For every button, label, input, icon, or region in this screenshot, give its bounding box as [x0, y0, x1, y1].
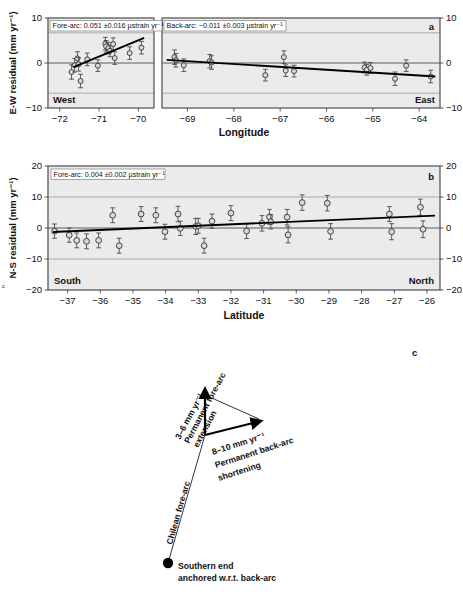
data-point — [78, 79, 83, 84]
x-tick-label: −34 — [158, 295, 174, 306]
x-tick-label: −67 — [272, 113, 288, 124]
x-tick-label: −64 — [411, 113, 427, 124]
data-point — [139, 45, 144, 50]
y-tick-label: −10 — [26, 102, 42, 113]
x-tick-label: −33 — [190, 295, 206, 306]
data-point — [175, 211, 181, 217]
data-point — [292, 69, 297, 74]
data-point — [285, 232, 291, 238]
data-point — [116, 243, 122, 249]
data-point — [263, 73, 268, 78]
x-axis-title-b: Latitude — [224, 309, 265, 321]
x-tick-label: −32 — [223, 295, 239, 306]
x-tick-label: −70 — [130, 113, 146, 124]
data-point — [389, 229, 395, 235]
data-point — [95, 63, 100, 68]
y-tick-label-right: 10 — [446, 12, 457, 23]
direction-label-north: North — [409, 275, 435, 286]
y-axis-title-a: E-W residual (mm yr⁻¹) — [7, 11, 18, 114]
data-point — [84, 238, 90, 244]
data-point — [162, 229, 168, 235]
data-point — [284, 214, 290, 220]
data-point — [181, 63, 186, 68]
data-point — [209, 218, 215, 224]
data-point — [368, 65, 373, 70]
data-point — [324, 200, 330, 206]
data-point — [138, 211, 144, 217]
data-point — [74, 238, 80, 244]
y-tick-label: 0 — [37, 57, 42, 68]
x-tick-label: −28 — [354, 295, 370, 306]
data-point — [328, 229, 334, 235]
data-point — [110, 212, 116, 218]
direction-label-west: West — [53, 94, 76, 105]
data-point — [201, 243, 207, 249]
y-tick-label-right: 20 — [446, 160, 457, 171]
x-tick-label: −35 — [125, 295, 141, 306]
data-point — [418, 204, 424, 210]
data-point — [386, 211, 392, 217]
figure-container: Fore-arc: 0.051 ±0.016 µstrain yr⁻¹Back-… — [0, 0, 463, 596]
panel-label-c: c — [412, 347, 417, 358]
panel-label-a: a — [429, 21, 435, 32]
y-tick-label-right: 0 — [446, 57, 451, 68]
x-tick-label: −66 — [318, 113, 334, 124]
annotation-forearc-b: Fore-arc: 0.004 ±0.002 µstrain yr⁻¹ — [54, 170, 166, 179]
y-tick-label: 10 — [31, 12, 42, 23]
x-tick-label: −31 — [256, 295, 272, 306]
anchor-caption-line1: Southern end — [178, 561, 233, 571]
data-point — [111, 42, 116, 47]
data-point — [66, 232, 72, 238]
edge-mark: c — [2, 283, 5, 289]
x-tick-label: −72 — [52, 113, 68, 124]
x-tick-label: −27 — [386, 295, 402, 306]
data-point — [283, 68, 288, 73]
y-axis-title-b: N-S residual (mm yr⁻¹) — [7, 177, 18, 278]
data-point — [153, 212, 159, 218]
x-tick-label: −26 — [419, 295, 435, 306]
data-point — [96, 238, 102, 244]
panel-label-b: b — [428, 171, 434, 182]
y-tick-label-right: 0 — [446, 222, 451, 233]
y-tick-label: 20 — [31, 160, 42, 171]
direction-label-south: South — [54, 275, 81, 286]
figure-svg: Fore-arc: 0.051 ±0.016 µstrain yr⁻¹Back-… — [0, 0, 463, 596]
y-tick-label-right: −20 — [446, 284, 462, 295]
y-tick-label: 10 — [31, 191, 42, 202]
direction-label-east: East — [415, 94, 436, 105]
x-tick-label: −68 — [226, 113, 242, 124]
data-point — [244, 228, 250, 234]
annotation-forearc-a: Fore-arc: 0.051 ±0.016 µstrain yr⁻¹ — [53, 21, 165, 30]
x-tick-label: −37 — [60, 295, 76, 306]
data-point — [127, 51, 132, 56]
panel-b: Fore-arc: 0.004 ±0.002 µstrain yr⁻¹South… — [7, 160, 462, 321]
data-point — [420, 226, 426, 232]
y-tick-label: 0 — [37, 222, 42, 233]
panel-c: 3–6 mm yr⁻¹Permanent fore-arcextension8–… — [163, 347, 417, 583]
data-point — [393, 76, 398, 81]
y-tick-label-right: −10 — [446, 102, 462, 113]
data-point — [281, 55, 286, 60]
data-point — [299, 200, 305, 206]
x-tick-label: −29 — [321, 295, 337, 306]
y-tick-label: −10 — [26, 253, 42, 264]
data-point — [228, 210, 234, 216]
x-tick-label: −69 — [179, 113, 195, 124]
anchor-dot — [163, 558, 173, 568]
x-tick-label: −30 — [288, 295, 304, 306]
annotation-backarc-a: Back-arc: −0.011 ±0.003 µstrain yr⁻¹ — [167, 21, 284, 30]
x-tick-label: −65 — [365, 113, 381, 124]
y-tick-label: −20 — [26, 284, 42, 295]
data-point — [75, 56, 80, 61]
x-tick-label: −36 — [92, 295, 108, 306]
panel-a: Fore-arc: 0.051 ±0.016 µstrain yr⁻¹Back-… — [7, 11, 462, 138]
y-tick-label-right: 10 — [446, 191, 457, 202]
chilean-forearc-label: Chilean fore-arc — [164, 480, 192, 546]
y-tick-label-right: −10 — [446, 253, 462, 264]
anchor-caption-line2: anchored w.r.t. back-arc — [178, 573, 276, 583]
data-point — [404, 63, 409, 68]
x-tick-label: −71 — [91, 113, 107, 124]
x-axis-title-a: Longitude — [219, 126, 270, 138]
data-point — [112, 56, 117, 61]
